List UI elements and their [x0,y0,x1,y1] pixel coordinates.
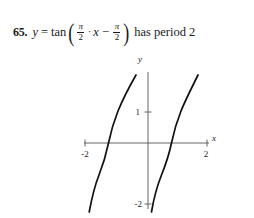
problem-statement: 65. y = tan ( π 2 · x − π 2 ) has period… [13,17,251,47]
x-tick-label-neg-two: -2 [81,149,89,159]
x-tick-label-two: 2 [204,149,209,159]
fraction-denominator: 2 [114,33,121,42]
multiplication-dot: · [88,26,92,37]
period-statement: has period 2 [134,26,195,39]
fraction-denominator: 2 [77,33,84,42]
x-axis-label: x [211,133,216,143]
worksheet-page: 65. y = tan ( π 2 · x − π 2 ) has period… [0,0,254,218]
minus-sign: − [102,26,109,39]
tangent-branch-right [152,75,199,212]
equation-lhs-variable: y [32,26,38,39]
equals-sign: = [41,26,48,39]
y-tick-label-one: 1 [136,107,141,117]
problem-number: 65. [13,26,27,38]
y-axis-label: y [137,54,142,64]
tangent-graph-figure: y x -2 2 1 -2 [0,45,254,218]
tangent-function-name: tan [51,26,66,39]
fraction-numerator: π [114,22,121,31]
graph-canvas: y x -2 2 1 -2 [0,45,254,218]
equation-inner-variable: x [93,26,99,39]
fraction-pi-over-two-first: π 2 [77,22,84,43]
tangent-branch-left [89,75,136,212]
y-tick-label-neg-two: -2 [135,199,143,209]
fraction-numerator: π [77,22,84,31]
fraction-pi-over-two-second: π 2 [113,22,120,43]
